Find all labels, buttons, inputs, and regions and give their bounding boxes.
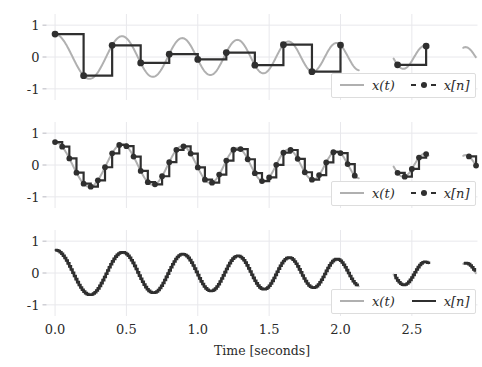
sample-marker (124, 143, 130, 149)
sample-marker (395, 170, 401, 176)
sample-marker (402, 174, 408, 180)
sample-marker (423, 43, 430, 50)
sample-marker (52, 31, 59, 38)
sample-marker (280, 41, 287, 48)
sample-marker (345, 161, 351, 167)
sample-marker (273, 162, 279, 168)
legend-entry-continuous: x(t) (339, 290, 411, 313)
legend-swatch-sampled-line (411, 295, 437, 307)
legend-oversampled[interactable]: x(t)x[n] (331, 289, 476, 314)
legend-marker-dot (421, 82, 427, 88)
x-axis-label: Time [seconds] (214, 343, 310, 358)
sample-marker (166, 51, 173, 58)
sample-marker (216, 172, 222, 178)
y-tick-label: 0 (4, 158, 40, 173)
legend-undersampled[interactable]: x(t)x[n] (331, 73, 476, 98)
sample-marker (323, 160, 329, 166)
sample-marker (252, 170, 258, 176)
legend-label-sampled: x[n] (444, 186, 470, 201)
sample-marker (245, 156, 251, 162)
sample-marker (409, 166, 415, 172)
x-tick-label: 1.5 (259, 322, 280, 337)
y-tick-label: -1 (4, 189, 40, 204)
sample-marker (137, 60, 144, 67)
x-tick-label: 1.0 (187, 322, 208, 337)
sample-marker (302, 169, 308, 175)
legend-entry-sampled: x[n] (411, 290, 470, 313)
y-tick-label: 1 (4, 18, 40, 33)
sample-marker (295, 156, 301, 162)
figure-canvas: -101-101-1010.00.51.01.52.02.5Time [seco… (0, 0, 482, 367)
sample-marker (138, 168, 144, 174)
sample-marker (109, 42, 116, 49)
continuous-signal-line (463, 47, 476, 57)
sample-marker (80, 72, 87, 79)
sample-marker (102, 164, 108, 170)
sample-marker (209, 180, 215, 186)
sample-marker (188, 151, 194, 157)
sampled-signal-staircase (55, 250, 358, 295)
y-tick-label: 0 (4, 50, 40, 65)
sample-marker (259, 178, 265, 184)
sample-marker (416, 155, 422, 161)
sample-marker (281, 150, 287, 156)
legend-entry-sampled: x[n] (411, 74, 470, 97)
sample-marker (330, 149, 336, 155)
sample-marker (173, 147, 179, 153)
x-tick-label: 0.0 (45, 322, 66, 337)
sample-marker (338, 150, 344, 156)
legend-label-continuous: x(t) (372, 186, 395, 201)
sample-marker (316, 172, 322, 178)
sample-marker (288, 147, 294, 153)
x-tick-label: 0.5 (116, 322, 137, 337)
sample-marker (74, 170, 80, 176)
sample-marker (251, 62, 258, 69)
sample-marker (195, 165, 201, 171)
legend-label-continuous: x(t) (372, 294, 395, 309)
legend-entry-continuous: x(t) (339, 74, 411, 97)
legend-label-sampled: x[n] (444, 294, 470, 309)
sample-marker (66, 156, 72, 162)
sample-marker (231, 147, 237, 153)
sample-marker (88, 184, 94, 190)
sample-marker (223, 49, 230, 56)
legend-entry-sampled: x[n] (411, 182, 470, 205)
sample-marker (159, 173, 165, 179)
sample-marker (81, 181, 87, 187)
sample-marker (352, 173, 358, 179)
y-tick-label: 1 (4, 234, 40, 249)
legend-swatch-continuous-line (339, 79, 365, 91)
y-tick-label: -1 (4, 297, 40, 312)
legend-near-nyquist[interactable]: x(t)x[n] (331, 181, 476, 206)
y-tick-label: 1 (4, 126, 40, 141)
sample-marker (466, 154, 472, 160)
sample-marker (309, 177, 315, 183)
x-tick-label: 2.5 (402, 322, 423, 337)
sample-marker (152, 181, 158, 187)
sample-marker (309, 68, 316, 75)
sample-marker (116, 142, 122, 148)
legend-entry-continuous: x(t) (339, 182, 411, 205)
sample-marker (166, 159, 172, 165)
sample-marker (194, 56, 201, 63)
x-tick-label: 2.0 (330, 322, 351, 337)
sample-marker (394, 61, 401, 68)
sample-marker (238, 146, 244, 152)
sample-marker (131, 154, 137, 160)
legend-swatch-continuous-line (339, 295, 365, 307)
sample-marker (109, 150, 115, 156)
sample-marker (181, 143, 187, 149)
sample-marker (52, 139, 58, 145)
sample-marker (266, 175, 272, 181)
sample-marker (423, 151, 429, 157)
legend-label-sampled: x[n] (444, 78, 470, 93)
sample-marker (473, 163, 479, 169)
y-tick-label: 0 (4, 266, 40, 281)
sample-marker (95, 177, 101, 183)
legend-label-continuous: x(t) (372, 78, 395, 93)
legend-swatch-sampled-line (411, 187, 437, 199)
y-tick-label: -1 (4, 81, 40, 96)
legend-swatch-sampled-line (411, 79, 437, 91)
sampled-signal-staircase (464, 263, 475, 272)
sample-marker (145, 179, 151, 185)
